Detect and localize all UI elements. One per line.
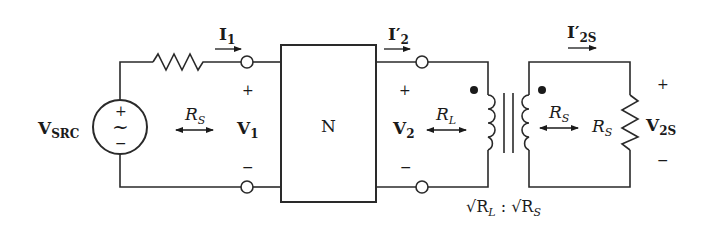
port1-impedance-label: RS [185, 106, 205, 123]
port1-top-terminal [241, 56, 253, 68]
port2-voltage-label: V2 [393, 120, 415, 137]
load-minus-sign: − [657, 153, 669, 167]
wire-source-top [120, 62, 153, 100]
port2-plus-sign: + [399, 83, 411, 97]
port2-minus-sign: − [400, 160, 412, 174]
port1-plus-sign: + [242, 83, 254, 97]
turns-ratio-label: √RL : √RS [466, 199, 541, 215]
secondary-polarity-dot [538, 86, 546, 94]
load-voltage-label: V2S [646, 117, 676, 134]
current-label-i2s: I′2S [567, 24, 596, 41]
network-label: N [321, 118, 336, 135]
source-voltage-label: VSRC [38, 120, 79, 137]
load-resistor [622, 95, 638, 150]
port1-minus-sign: − [242, 160, 254, 174]
port2-bottom-terminal [416, 181, 428, 193]
port1-bottom-terminal [241, 181, 253, 193]
wire-secondary-bottom [529, 150, 630, 187]
wire-to-primary-top [428, 62, 488, 95]
secondary-impedance-label: RS [549, 104, 569, 121]
port2-top-terminal [416, 56, 428, 68]
primary-polarity-dot [470, 86, 478, 94]
source-ac-symbol: ~ [112, 117, 129, 137]
primary-coil [488, 95, 495, 150]
source-resistor [153, 54, 208, 70]
current-label-i2: I′2 [388, 26, 409, 43]
port1-voltage-label: V1 [237, 120, 259, 137]
current-label-i1: I1 [219, 26, 235, 43]
source-minus-sign: − [115, 136, 127, 150]
secondary-coil [522, 95, 529, 150]
wire-to-primary-bottom [428, 150, 488, 187]
load-resistor-label: RS [592, 118, 612, 135]
wire-source-bottom [120, 154, 241, 187]
load-plus-sign: + [657, 77, 669, 91]
port2-impedance-label: RL [436, 106, 456, 123]
